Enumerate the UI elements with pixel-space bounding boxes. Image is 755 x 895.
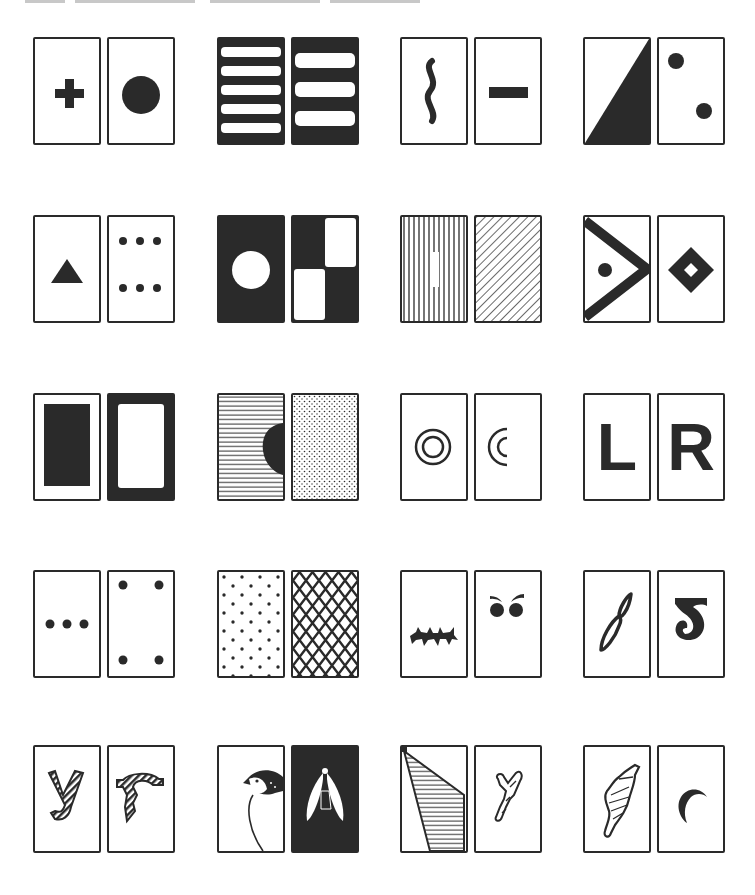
pair-rectangles	[33, 393, 173, 499]
card-moth	[291, 745, 359, 853]
horizontal-bar-icon	[476, 39, 540, 143]
pair-wave-bar	[400, 37, 540, 143]
card-caterpillar	[400, 570, 468, 678]
pair-circles-arcs	[400, 393, 540, 499]
stipple-icon	[293, 395, 357, 499]
diagonal-stripes-icon	[476, 217, 540, 321]
pine-cone-icon	[585, 747, 649, 851]
hollow-diamond-icon	[659, 217, 723, 321]
card-five-bars	[217, 37, 285, 145]
pair-dot-counts	[33, 570, 173, 676]
pair-patterned-letters	[33, 745, 173, 851]
three-dots-icon	[35, 572, 99, 676]
white-rectangle-icon	[109, 395, 173, 499]
pair-cross-circle	[33, 37, 173, 143]
card-figure-eight	[583, 570, 651, 678]
card-patterned-r	[107, 745, 175, 853]
card-concentric-arcs	[474, 393, 542, 501]
pair-triangle-dots	[583, 37, 723, 143]
card-six-dots	[107, 215, 175, 323]
card-cross	[33, 37, 101, 145]
pair-chevron-diamond	[583, 215, 723, 321]
pair-bird-moth	[217, 745, 357, 851]
four-dots-icon	[109, 572, 173, 676]
card-letter-l: L	[583, 393, 651, 501]
triangle-icon	[35, 217, 99, 321]
card-letter-r: R	[657, 393, 725, 501]
patterned-y-icon	[35, 747, 99, 851]
pair-wedge-twig	[400, 745, 540, 851]
card-chevron	[583, 215, 651, 323]
checkerboard-icon	[293, 217, 357, 321]
card-three-bars	[291, 37, 359, 145]
hatched-wedge-icon	[402, 747, 466, 851]
card-hatched-wedge	[400, 745, 468, 853]
filled-circle-icon	[109, 39, 173, 143]
card-lattice	[291, 570, 359, 678]
card-circle	[107, 37, 175, 145]
pair-dotgrid-lattice	[217, 570, 357, 676]
moth-icon	[293, 747, 357, 851]
card-black-rect	[33, 393, 101, 501]
diamond-lattice-icon	[293, 572, 357, 676]
card-two-dots	[657, 37, 725, 145]
card-white-rect	[107, 393, 175, 501]
card-lines-halfdisc	[217, 393, 285, 501]
dot-grid-icon	[219, 572, 283, 676]
six-dots-icon	[109, 217, 173, 321]
pair-cone-crescent	[583, 745, 723, 851]
card-four-dots	[107, 570, 175, 678]
card-white-circle	[217, 215, 285, 323]
cross-icon	[35, 39, 99, 143]
vertical-stripes-icon	[402, 217, 466, 321]
card-diagonal-stripes	[474, 215, 542, 323]
card-diagonal-triangle	[583, 37, 651, 145]
white-circle-icon	[219, 217, 283, 321]
pair-caterpillar-eyes	[400, 570, 540, 676]
pair-letters-lr: L R	[583, 393, 723, 499]
card-inverted-two	[657, 570, 725, 678]
card-twig	[474, 745, 542, 853]
letter-r: R	[659, 395, 723, 499]
pair-circle-checker	[217, 215, 357, 321]
card-diamond	[657, 215, 725, 323]
three-bars-icon	[293, 39, 357, 143]
lines-half-disc-icon	[219, 395, 283, 499]
twig-icon	[476, 747, 540, 851]
pair-triangle-six-dots	[33, 215, 173, 321]
bird-icon	[219, 747, 283, 851]
card-patterned-y	[33, 745, 101, 853]
pair-eight-two	[583, 570, 723, 676]
card-checkerboard	[291, 215, 359, 323]
five-bars-icon	[219, 39, 283, 143]
card-concentric-circles	[400, 393, 468, 501]
inverted-two-icon	[659, 572, 723, 676]
card-wave	[400, 37, 468, 145]
cropped-caption-strip	[0, 0, 755, 4]
figure-eight-icon	[585, 572, 649, 676]
card-crescent	[657, 745, 725, 853]
letter-l: L	[585, 395, 649, 499]
card-eyes	[474, 570, 542, 678]
pair-lines-stipple	[217, 393, 357, 499]
concentric-arcs-icon	[476, 395, 540, 499]
black-rectangle-icon	[35, 395, 99, 499]
diagonal-triangle-icon	[585, 39, 649, 143]
crescent-moon-icon	[659, 747, 723, 851]
card-stipple	[291, 393, 359, 501]
card-dot-grid	[217, 570, 285, 678]
card-bird	[217, 745, 285, 853]
two-dots-icon	[659, 39, 723, 143]
pair-bars	[217, 37, 357, 143]
concentric-circles-icon	[402, 395, 466, 499]
angry-eyes-icon	[476, 572, 540, 676]
pair-stripes	[400, 215, 540, 321]
card-triangle	[33, 215, 101, 323]
patterned-r-icon	[109, 747, 173, 851]
card-vertical-stripes	[400, 215, 468, 323]
chevron-dot-icon	[585, 217, 649, 321]
wavy-line-icon	[402, 39, 466, 143]
card-bar	[474, 37, 542, 145]
caterpillar-icon	[402, 572, 466, 676]
card-three-dots	[33, 570, 101, 678]
